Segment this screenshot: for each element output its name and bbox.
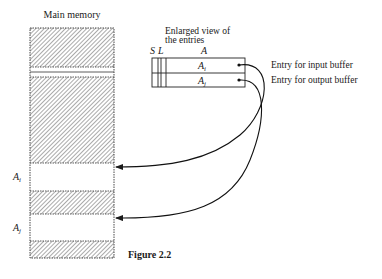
- pointer-arrow-aj: [116, 80, 262, 218]
- figure-caption: Figure 2.2: [128, 249, 171, 260]
- buffer-label-ai: Ai: [12, 171, 21, 184]
- memory-buffer-ai: [30, 163, 114, 191]
- memory-region-used: [30, 28, 114, 67]
- memory-buffer-aj: [30, 214, 114, 241]
- main-memory: [30, 28, 114, 258]
- entry-label-aj: Aj: [197, 75, 206, 88]
- diagram: Main memory Ai Aj Enlarged view of the e…: [0, 0, 382, 279]
- enlarged-view-caption-2: the entries: [165, 35, 205, 45]
- main-memory-title: Main memory: [44, 9, 101, 20]
- entry-description-output: Entry for output buffer: [271, 75, 358, 85]
- memory-region-used: [30, 77, 114, 163]
- column-header-l: L: [157, 45, 164, 56]
- entry-label-ai: Ai: [197, 60, 206, 73]
- column-header-a: A: [200, 45, 208, 56]
- memory-region-used: [30, 191, 114, 214]
- column-header-s: S: [150, 45, 155, 56]
- buffer-label-aj: Aj: [12, 222, 21, 235]
- memory-region-used: [30, 241, 114, 258]
- entry-description-input: Entry for input buffer: [271, 60, 354, 70]
